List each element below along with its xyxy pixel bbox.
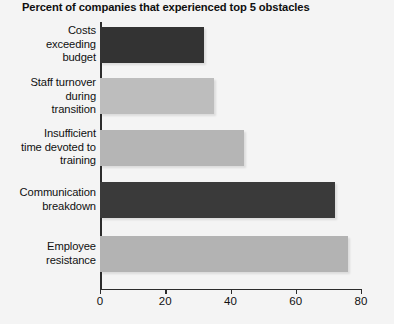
x-tick-label: 0 <box>80 295 120 307</box>
category-label-line: Staff turnover <box>30 76 96 88</box>
chart-page: Percent of companies that experienced to… <box>0 0 394 324</box>
bar-communication-breakdown[interactable] <box>100 182 335 218</box>
bar-row <box>100 130 361 166</box>
bar-employee-resistance[interactable] <box>100 236 348 272</box>
category-label-line: Communication <box>20 186 96 198</box>
bar-costs-exceeding-budget[interactable] <box>100 27 204 63</box>
x-tick-mark <box>231 289 232 294</box>
category-label-communication-breakdown: Communicationbreakdown <box>4 186 96 213</box>
category-label-insufficient-time-devoted-to-training: Insufficienttime devoted totraining <box>4 127 96 168</box>
bar-row <box>100 78 361 114</box>
category-label-line: exceeding <box>46 38 96 50</box>
x-tick-label: 20 <box>145 295 185 307</box>
x-tick-label: 80 <box>341 295 381 307</box>
bar-row <box>100 236 361 272</box>
bar-row <box>100 182 361 218</box>
x-tick-label: 60 <box>276 295 316 307</box>
category-label-line: training <box>60 154 96 166</box>
bar-insufficient-time-devoted-to-training[interactable] <box>100 130 244 166</box>
category-label-staff-turnover-during-transition: Staff turnoverduringtransition <box>4 76 96 117</box>
x-tick-mark <box>165 289 166 294</box>
x-tick-mark <box>100 289 101 294</box>
category-label-line: Insufficient <box>44 127 96 139</box>
bar-row <box>100 27 361 63</box>
category-label-line: time devoted to <box>21 141 96 153</box>
x-tick-label: 40 <box>211 295 251 307</box>
category-label-line: budget <box>62 51 96 63</box>
category-label-line: Costs <box>68 24 96 36</box>
bar-staff-turnover-during-transition[interactable] <box>100 78 214 114</box>
category-label-line: Employee <box>47 240 96 252</box>
category-label-line: during <box>66 90 97 102</box>
category-label-line: transition <box>52 103 96 115</box>
x-tick-mark <box>361 289 362 294</box>
category-label-line: resistance <box>46 254 96 266</box>
category-label-line: breakdown <box>42 200 96 212</box>
x-tick-mark <box>296 289 297 294</box>
category-label-costs-exceeding-budget: Costsexceedingbudget <box>4 24 96 65</box>
chart-title: Percent of companies that experienced to… <box>22 1 310 13</box>
category-label-employee-resistance: Employeeresistance <box>4 240 96 267</box>
